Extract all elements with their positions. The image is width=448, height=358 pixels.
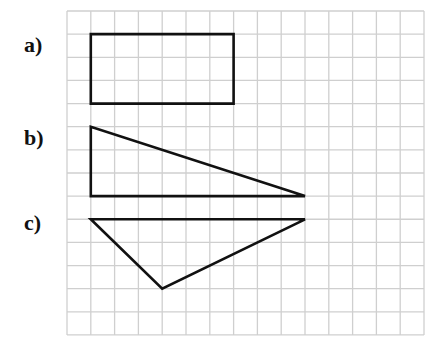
triangle-b (91, 127, 305, 196)
triangle-c (91, 219, 305, 288)
shapes (91, 34, 305, 289)
grid-paper (67, 11, 424, 335)
grid-diagram (0, 0, 448, 358)
